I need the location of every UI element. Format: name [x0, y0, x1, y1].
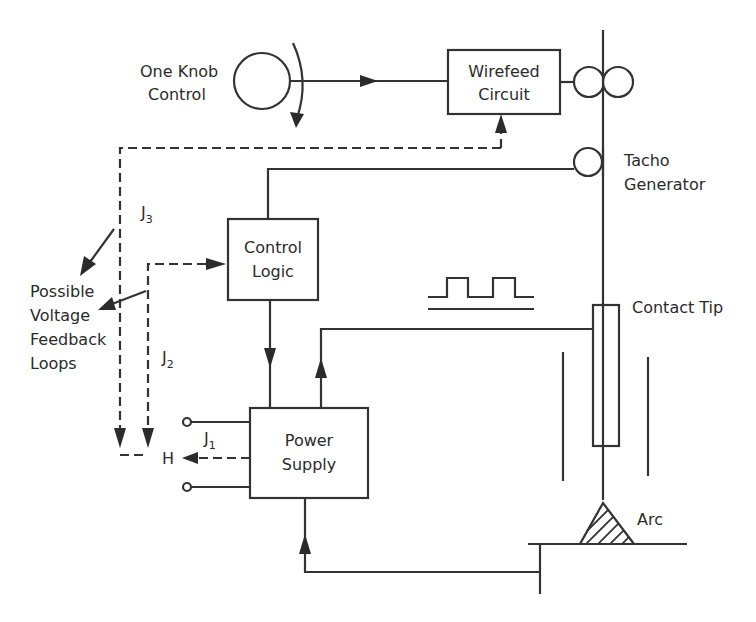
arrowhead-left-icon [182, 452, 198, 464]
knob-label-line1: One Knob [140, 62, 218, 81]
power-supply-block: Power Supply [250, 408, 368, 498]
j2-feedback-loop [148, 264, 220, 432]
return-current-line [305, 498, 540, 572]
arc-label: Arc [637, 510, 663, 529]
pointer-j3 [90, 229, 114, 262]
welding-control-diagram: One Knob Control Wirefeed Circuit Tacho … [0, 0, 756, 622]
arrowhead-down-icon [114, 428, 126, 448]
wirefeed-circuit-block: Wirefeed Circuit [448, 50, 560, 114]
knob-icon [234, 53, 290, 109]
feedback-label-line3: Feedback [30, 330, 107, 349]
feed-roller-left-icon [574, 67, 604, 97]
feedback-label-line2: Voltage [30, 306, 90, 325]
power-supply-label-line2: Supply [282, 455, 337, 474]
arrowhead-down-icon [264, 348, 276, 368]
rotation-arrowhead-icon [290, 112, 304, 128]
contact-tip-label: Contact Tip [632, 298, 723, 317]
arrowhead-right-icon [360, 75, 378, 87]
tacho-label-line2: Generator [624, 175, 706, 194]
tacho-label-line1: Tacho [623, 151, 670, 170]
j1-label: J1 [203, 429, 216, 452]
arrowhead-up-icon [315, 358, 327, 378]
feed-roller-right-icon [603, 67, 633, 97]
pointer-j2 [112, 291, 146, 304]
terminal-bottom-icon [183, 483, 191, 491]
power-supply-label-line1: Power [285, 431, 334, 450]
arrowhead-down-icon [142, 428, 154, 448]
feedback-label-line1: Possible [30, 282, 94, 301]
knob-label-line2: Control [148, 85, 206, 104]
contact-tip [593, 305, 619, 446]
arrowhead-up-icon [299, 534, 311, 554]
wirefeed-label-line2: Circuit [478, 85, 530, 104]
pulse-waveform-icon [428, 278, 534, 297]
j2-label: J2 [161, 348, 174, 371]
arrowhead-icon [98, 297, 116, 310]
arrowhead-up-icon [495, 114, 507, 133]
control-logic-label-line1: Control [244, 238, 302, 257]
one-knob-control: One Knob Control [140, 43, 304, 128]
control-logic-label-line2: Logic [252, 262, 294, 281]
h-label: H [162, 449, 174, 468]
power-to-contact-tip-line [321, 329, 593, 408]
terminal-top-icon [183, 418, 191, 426]
control-logic-block: Control Logic [228, 219, 318, 300]
tacho-to-control-logic-line [268, 169, 574, 219]
wirefeed-label-line1: Wirefeed [468, 62, 539, 81]
feedback-label-line4: Loops [30, 354, 77, 373]
tacho-generator-icon [574, 148, 602, 176]
arrowhead-icon [80, 256, 96, 276]
j3-label: J3 [140, 203, 153, 226]
arrowhead-right-icon [206, 258, 226, 270]
